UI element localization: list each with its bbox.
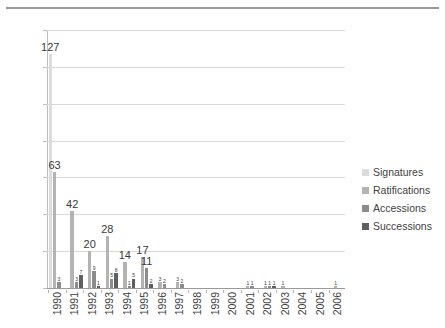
x-axis-tick-label: 1995 bbox=[139, 292, 150, 315]
bar[interactable]: 1 bbox=[97, 286, 100, 288]
bar[interactable]: 3 bbox=[158, 282, 161, 288]
legend-item[interactable]: Signatures bbox=[362, 166, 442, 178]
bar-value-label: 8 bbox=[115, 268, 118, 273]
bar[interactable]: 3 bbox=[75, 282, 78, 288]
bar[interactable]: 9 bbox=[92, 271, 95, 288]
x-axis-tick-cell: 1997 bbox=[171, 290, 189, 328]
bar-value-label: 63 bbox=[48, 160, 60, 171]
bar[interactable]: 1 bbox=[246, 286, 249, 288]
y-axis-tick-mark bbox=[43, 251, 47, 252]
x-axis-tick-mark bbox=[223, 290, 224, 293]
bar-value-label: 14 bbox=[119, 250, 131, 261]
bar[interactable]: 2 bbox=[180, 284, 183, 288]
x-axis-tick-label: 1992 bbox=[87, 292, 98, 315]
bar-value-label: 5 bbox=[132, 273, 135, 278]
legend-label: Ratifications bbox=[373, 185, 430, 196]
bar[interactable]: 7 bbox=[79, 275, 82, 288]
bar-group: 111 bbox=[259, 30, 277, 288]
x-axis-tick-mark bbox=[171, 290, 172, 293]
x-axis-tick-cell: 1994 bbox=[118, 290, 136, 328]
bar[interactable]: 1 bbox=[334, 286, 337, 288]
bar-value-label: 1 bbox=[268, 281, 271, 286]
y-axis-tick-mark bbox=[43, 214, 47, 215]
bar[interactable]: 20 bbox=[88, 251, 91, 288]
bar[interactable]: 3 bbox=[57, 282, 60, 288]
legend-label: Signatures bbox=[373, 167, 423, 178]
y-axis-tick-mark bbox=[43, 177, 47, 178]
bar-groups: 12763342372091285814151711232321111111 bbox=[48, 30, 345, 288]
x-axis-tick-mark bbox=[258, 290, 259, 293]
bar-group bbox=[224, 30, 242, 288]
x-axis-tick-label: 2005 bbox=[314, 292, 325, 315]
x-axis-tick-label: 1993 bbox=[104, 292, 115, 315]
bar-value-label: 11 bbox=[141, 256, 152, 267]
bar-group: 32 bbox=[153, 30, 171, 288]
bar-value-label: 5 bbox=[110, 273, 113, 278]
x-axis-tick-label: 2003 bbox=[279, 292, 290, 315]
y-axis-tick-mark bbox=[43, 104, 47, 105]
x-axis-tick-cell: 2003 bbox=[276, 290, 294, 328]
x-axis-tick-mark bbox=[48, 290, 49, 293]
bar-value-label: 1 bbox=[97, 281, 100, 286]
bar[interactable]: 1 bbox=[250, 286, 253, 288]
x-axis-tick-mark bbox=[118, 290, 119, 293]
bar-value-label: 3 bbox=[75, 277, 78, 282]
bar-value-label: 2 bbox=[150, 279, 153, 284]
top-divider-rule bbox=[6, 7, 439, 9]
bar[interactable]: 8 bbox=[114, 273, 117, 288]
bar-value-label: 1 bbox=[251, 281, 254, 286]
legend-swatch-icon bbox=[362, 223, 369, 230]
x-axis-tick-label: 1998 bbox=[192, 292, 203, 315]
bar-value-label: 1 bbox=[282, 281, 285, 286]
bar-value-label: 1 bbox=[128, 281, 131, 286]
bar[interactable]: 1 bbox=[264, 286, 267, 288]
bar[interactable]: 2 bbox=[149, 284, 152, 288]
bar[interactable]: 3 bbox=[176, 282, 179, 288]
x-axis-tick-cell: 1993 bbox=[101, 290, 119, 328]
bar[interactable]: 5 bbox=[132, 279, 135, 288]
x-axis-tick-mark bbox=[188, 290, 189, 293]
legend-swatch-icon bbox=[362, 205, 369, 212]
bar-chart: 020406080100120140 127633423720912858141… bbox=[0, 14, 445, 328]
legend-swatch-icon bbox=[362, 169, 369, 176]
y-axis-tick-mark bbox=[43, 141, 47, 142]
x-axis-tick-labels: 1990199119921993199419951996199719981999… bbox=[48, 290, 346, 328]
x-axis-tick-label: 2002 bbox=[262, 292, 273, 315]
bar[interactable]: 2 bbox=[163, 284, 166, 288]
bar[interactable]: 5 bbox=[110, 279, 113, 288]
x-axis-tick-label: 1996 bbox=[157, 292, 168, 315]
bar-group bbox=[189, 30, 207, 288]
x-axis-line bbox=[47, 288, 345, 289]
bar-group: 2858 bbox=[101, 30, 119, 288]
bar-group: 127633 bbox=[48, 30, 66, 288]
x-axis-tick-mark bbox=[66, 290, 67, 293]
bar[interactable]: 14 bbox=[123, 262, 126, 288]
bar[interactable]: 63 bbox=[53, 172, 56, 288]
bar-group: 17112 bbox=[136, 30, 154, 288]
legend-item[interactable]: Successions bbox=[362, 220, 442, 232]
bar[interactable]: 1 bbox=[272, 286, 275, 288]
x-axis-tick-cell: 2005 bbox=[311, 290, 329, 328]
x-axis-tick-cell: 1995 bbox=[136, 290, 154, 328]
x-axis-tick-label: 1990 bbox=[52, 292, 63, 315]
bar-value-label: 1 bbox=[273, 281, 276, 286]
x-axis-tick-mark bbox=[241, 290, 242, 293]
legend-item[interactable]: Ratifications bbox=[362, 184, 442, 196]
bar[interactable]: 1 bbox=[268, 286, 271, 288]
x-axis-tick-label: 1999 bbox=[209, 292, 220, 315]
legend-item[interactable]: Accessions bbox=[362, 202, 442, 214]
bar[interactable]: 42 bbox=[70, 211, 73, 288]
bar[interactable]: 28 bbox=[106, 236, 109, 288]
bar-value-label: 7 bbox=[80, 270, 83, 275]
x-axis-tick-cell: 2001 bbox=[241, 290, 259, 328]
x-axis-tick-mark bbox=[329, 290, 330, 293]
bar[interactable]: 11 bbox=[145, 268, 148, 288]
x-axis-tick-mark bbox=[276, 290, 277, 293]
y-axis-tick-mark bbox=[43, 288, 47, 289]
bar[interactable]: 127 bbox=[49, 54, 52, 288]
bar[interactable]: 1 bbox=[128, 286, 131, 288]
x-axis-tick-cell: 2006 bbox=[329, 290, 347, 328]
x-axis-tick-label: 2006 bbox=[332, 292, 343, 315]
bar[interactable]: 1 bbox=[281, 286, 284, 288]
bar-group bbox=[294, 30, 312, 288]
